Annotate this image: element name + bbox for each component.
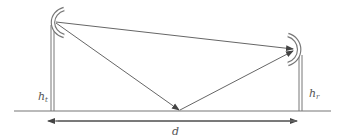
transmitter-pole bbox=[51, 25, 54, 111]
direct-ray bbox=[56, 22, 293, 49]
two-ray-diagram: ht hr d bbox=[0, 0, 342, 140]
receiver-pole bbox=[299, 55, 302, 111]
reflected-ray bbox=[180, 51, 293, 110]
receiver-height-label: hr bbox=[309, 87, 320, 101]
receiver-antenna-icon bbox=[288, 35, 299, 64]
distance-label: d bbox=[172, 125, 179, 138]
transmitter-height-label: ht bbox=[38, 90, 48, 104]
incident-ray bbox=[56, 23, 179, 110]
